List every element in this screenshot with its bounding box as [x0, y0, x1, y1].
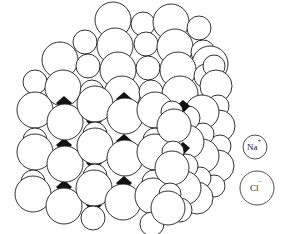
nacl-lattice-figure: Na+ Cl−	[0, 0, 291, 234]
legend-item-sodium: Na+	[243, 135, 267, 159]
legend-item-chloride: Cl−	[240, 171, 274, 205]
ion-legend: Na+ Cl−	[0, 0, 291, 234]
